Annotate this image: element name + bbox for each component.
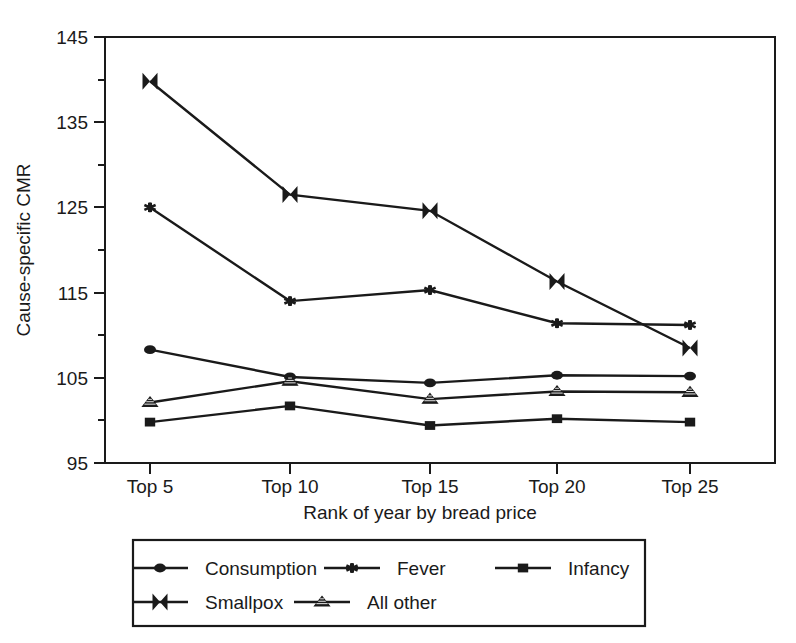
- legend-label: Smallpox: [205, 592, 284, 613]
- circle-marker: [424, 379, 436, 388]
- legend-item-consumption[interactable]: Consumption: [132, 558, 317, 579]
- legend-item-fever[interactable]: Fever: [324, 558, 446, 579]
- y-axis-minor-ticks: [98, 80, 105, 420]
- bowtie-marker: [423, 202, 438, 219]
- bowtie-marker: [283, 186, 298, 203]
- x-axis-tick-labels: Top 5 Top 10 Top 15 Top 20 Top 25: [127, 476, 719, 497]
- square-marker: [145, 418, 155, 427]
- circle-marker: [144, 345, 156, 354]
- series-layer: [143, 73, 698, 430]
- x-tick-label-top-15: Top 15: [401, 476, 458, 497]
- bowtie-marker: [683, 339, 698, 356]
- y-tick-label-145: 145: [56, 27, 88, 48]
- series-infancy: [145, 402, 695, 430]
- square-marker: [285, 402, 295, 411]
- legend-item-infancy[interactable]: Infancy: [495, 558, 630, 579]
- x-tick-label-top-20: Top 20: [528, 476, 585, 497]
- chart-canvas: 145 135 125 115 105 95 Cause-specific CM…: [0, 0, 796, 643]
- square-marker: [685, 418, 695, 427]
- y-axis-tick-labels: 145 135 125 115 105 95: [56, 27, 88, 474]
- y-axis-title: Cause-specific CMR: [13, 163, 34, 336]
- legend-box: [133, 540, 645, 626]
- legend-entries: ConsumptionFeverInfancySmallpoxAll other: [132, 558, 630, 613]
- y-tick-label-95: 95: [67, 453, 88, 474]
- series-all-other: [143, 376, 698, 407]
- legend-label: All other: [367, 592, 437, 613]
- legend-label: Consumption: [205, 558, 317, 579]
- bowtie-marker: [550, 273, 565, 290]
- square-marker: [552, 414, 562, 423]
- square-marker: [425, 421, 435, 430]
- x-axis-title: Rank of year by bread price: [303, 502, 536, 523]
- bowtie-marker: [143, 73, 158, 90]
- legend-label: Infancy: [568, 558, 630, 579]
- y-tick-label-135: 135: [56, 112, 88, 133]
- series-line: [150, 81, 690, 348]
- circle-marker: [551, 371, 563, 380]
- series-consumption: [144, 345, 696, 387]
- series-smallpox: [143, 73, 698, 357]
- cause-specific-cmr-chart: 145 135 125 115 105 95 Cause-specific CM…: [0, 0, 796, 643]
- bowtie-marker: [153, 594, 168, 611]
- legend-item-all-other[interactable]: All other: [294, 592, 437, 613]
- legend-label: Fever: [397, 558, 446, 579]
- legend-item-smallpox[interactable]: Smallpox: [132, 592, 284, 613]
- circle-marker: [154, 564, 166, 573]
- x-axis-ticks: [150, 463, 690, 474]
- x-tick-label-top-10: Top 10: [261, 476, 318, 497]
- y-tick-label-115: 115: [58, 283, 88, 304]
- x-tick-label-top-25: Top 25: [661, 476, 718, 497]
- series-line: [150, 381, 690, 402]
- series-line: [150, 406, 690, 426]
- square-marker: [518, 564, 528, 573]
- circle-marker: [684, 372, 696, 381]
- series-line: [150, 350, 690, 383]
- y-tick-label-105: 105: [56, 368, 88, 389]
- y-tick-label-125: 125: [56, 197, 88, 218]
- x-tick-label-top-5: Top 5: [127, 476, 173, 497]
